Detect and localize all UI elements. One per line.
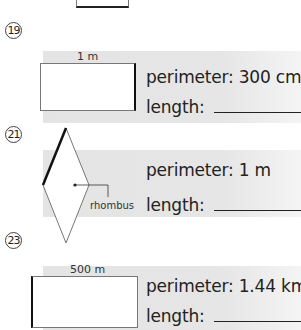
perimeter-text: perimeter: 1.44 km — [146, 276, 301, 296]
length-row: length: — [146, 306, 301, 326]
problem-number-23: 23 — [5, 232, 22, 249]
length-label: length: — [146, 306, 205, 326]
length-row: length: — [146, 195, 301, 215]
dimension-label-500m: 500 m — [70, 263, 105, 276]
length-answer-blank[interactable] — [214, 210, 301, 211]
rectangle-shape — [31, 276, 138, 328]
length-label: length: — [146, 195, 205, 215]
perimeter-text: perimeter: 1 m — [146, 160, 271, 180]
length-answer-blank[interactable] — [214, 321, 301, 322]
rhombus-label: rhombus — [90, 200, 134, 211]
